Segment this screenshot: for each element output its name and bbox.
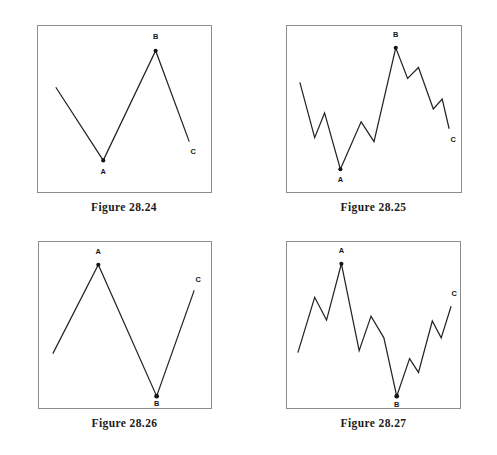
- pivot-label-b-28-25: B: [393, 30, 399, 39]
- figure-caption-28-24: Figure 28.24: [91, 201, 157, 213]
- panel-wrap-28-25: A B C: [286, 25, 462, 193]
- pivot-dot-b-28-25: [393, 46, 397, 50]
- panel-wrap-28-24: A B C: [37, 25, 212, 193]
- chart-panel-28-25: A B C: [286, 25, 462, 193]
- pivot-label-a-28-27: A: [339, 246, 345, 255]
- pivot-dot-a-28-27: [339, 262, 343, 266]
- pivot-label-b-28-26: B: [153, 399, 159, 408]
- figure-caption-28-27: Figure 28.27: [341, 417, 407, 429]
- chart-panel-28-27: A B C: [286, 241, 461, 409]
- pivot-label-c-28-24: C: [190, 147, 196, 156]
- pivot-label-a-28-26: A: [95, 247, 101, 256]
- pivot-label-a-28-25: A: [337, 175, 343, 184]
- wave-line-28-25: [299, 48, 448, 170]
- figure-caption-28-26: Figure 28.26: [92, 417, 158, 429]
- figure-sheet: A B C Figure 28.24 A B C Figure 28.25: [0, 0, 497, 455]
- pivot-label-c-28-25: C: [450, 135, 456, 144]
- figure-cell-28-27: A B C Figure 28.27: [248, 227, 497, 455]
- figure-cell-28-25: A B C Figure 28.25: [248, 0, 497, 227]
- pivot-label-b-28-27: B: [394, 400, 400, 409]
- figure-grid: A B C Figure 28.24 A B C Figure 28.25: [0, 0, 497, 455]
- panel-wrap-28-26: A B C: [38, 241, 212, 409]
- pivot-label-a-28-24: A: [100, 167, 106, 176]
- figure-caption-28-25: Figure 28.25: [341, 201, 407, 213]
- pivot-label-b-28-24: B: [152, 32, 158, 41]
- wave-line-28-26: [52, 265, 193, 396]
- wave-line-28-27: [298, 264, 451, 396]
- pivot-dot-b-28-24: [153, 49, 157, 53]
- pivot-label-c-28-26: C: [195, 275, 201, 284]
- pivot-label-c-28-27: C: [451, 289, 457, 298]
- panel-wrap-28-27: A B C: [286, 241, 461, 409]
- pivot-dot-a-28-25: [338, 167, 342, 171]
- chart-panel-28-26: A B C: [38, 241, 212, 409]
- figure-cell-28-26: A B C Figure 28.26: [0, 227, 248, 455]
- pivot-dot-b-28-27: [394, 394, 399, 399]
- pivot-dot-b-28-26: [154, 394, 159, 399]
- pivot-dot-a-28-24: [101, 158, 105, 162]
- pivot-dot-a-28-26: [96, 263, 100, 267]
- figure-cell-28-24: A B C Figure 28.24: [0, 0, 248, 227]
- chart-panel-28-24: A B C: [37, 25, 212, 193]
- wave-line-28-24: [55, 51, 188, 161]
